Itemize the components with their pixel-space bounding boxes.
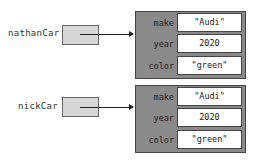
field-value: "green" bbox=[177, 56, 242, 75]
reference-box-nathanCar bbox=[62, 25, 99, 45]
field-row-year: year 2020 bbox=[136, 108, 245, 128]
field-value: 2020 bbox=[177, 108, 242, 127]
variable-label-nickCar: nickCar bbox=[18, 101, 58, 111]
field-row-color: color "green" bbox=[136, 130, 245, 150]
field-row-make: make "Audi" bbox=[136, 13, 245, 33]
field-key: year bbox=[136, 108, 174, 128]
object-box-nickCar: make "Audi" year 2020 color "green" bbox=[135, 85, 246, 153]
reference-arrow-nickCar bbox=[80, 107, 133, 108]
field-value: "green" bbox=[177, 130, 242, 149]
variable-label-nathanCar: nathanCar bbox=[8, 28, 59, 38]
field-value: "Audi" bbox=[177, 87, 242, 106]
field-value: 2020 bbox=[177, 34, 242, 53]
reference-arrow-nathanCar bbox=[80, 34, 133, 35]
field-key: make bbox=[136, 13, 174, 33]
field-row-make: make "Audi" bbox=[136, 87, 245, 107]
field-key: year bbox=[136, 34, 174, 54]
object-box-nathanCar: make "Audi" year 2020 color "green" bbox=[135, 11, 246, 79]
field-key: make bbox=[136, 87, 174, 107]
field-row-color: color "green" bbox=[136, 56, 245, 76]
field-key: color bbox=[136, 130, 174, 150]
field-key: color bbox=[136, 56, 174, 76]
field-value: "Audi" bbox=[177, 13, 242, 32]
field-row-year: year 2020 bbox=[136, 34, 245, 54]
